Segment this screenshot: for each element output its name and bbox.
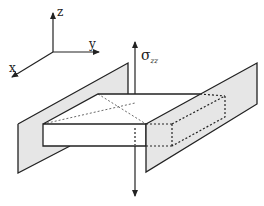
y-axis-label: y [89, 38, 96, 50]
x-axis-label: x [9, 62, 16, 74]
stress-label: σzz [141, 48, 158, 65]
z-axis-label: z [57, 6, 63, 18]
right-plate [146, 63, 257, 172]
stress-diagram: z y x σzz [0, 0, 264, 206]
coordinate-axes [12, 13, 99, 77]
stress-subscript: zz [151, 57, 158, 65]
stress-symbol: σ [141, 47, 151, 63]
diagram-canvas [0, 0, 264, 206]
x-axis [12, 52, 53, 77]
